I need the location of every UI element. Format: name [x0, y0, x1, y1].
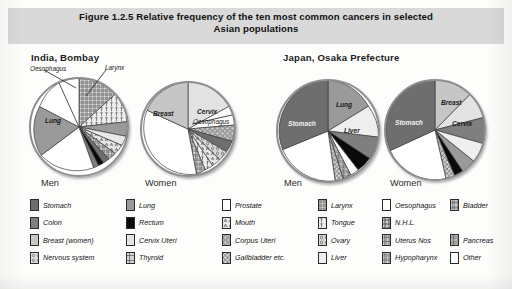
legend-swatch-icon	[222, 199, 231, 211]
legend-label: Corpus Uteri	[235, 236, 275, 245]
legend-label: Tongue	[331, 218, 355, 227]
legend-swatch-icon	[30, 217, 39, 229]
pie-japan-men: Stomach Lung Liver	[276, 79, 380, 183]
legend-label: Prostate	[235, 201, 262, 210]
slice-label-lung: Lung	[45, 117, 61, 124]
legend-label: Bladder	[463, 201, 488, 210]
legend-swatch-icon	[222, 252, 231, 264]
legend-swatch-icon	[318, 199, 327, 211]
legend-item-liver[interactable]: Liver	[318, 252, 347, 264]
slice-label-breast-japan-women: Breast	[441, 99, 462, 106]
legend-swatch-icon	[382, 217, 391, 229]
legend-label: Gallbladder etc.	[235, 253, 285, 262]
legend-item-prostate[interactable]: Prostate	[222, 199, 262, 211]
slice-label-liver-japan-men: Liver	[344, 127, 360, 134]
legend-item-gallbladder-etc[interactable]: Gallbladder etc.	[222, 252, 285, 264]
legend-item-tongue[interactable]: Tongue	[318, 217, 355, 229]
legend-label: Pancreas	[463, 236, 493, 245]
slice-label-cervix-japan-women: Cervix	[452, 120, 472, 127]
legend-item-nervous-system[interactable]: Nervous system	[30, 252, 95, 264]
legend-label: Liver	[331, 253, 347, 262]
legend: StomachColonBreast (women)Nervous system…	[30, 199, 500, 271]
callout-oesophagus-india-men: Oesophagus	[30, 65, 66, 72]
legend-swatch-icon	[318, 234, 327, 246]
slice-label-stomach-japan-women: Stomach	[395, 119, 423, 126]
legend-swatch-icon	[30, 252, 39, 264]
legend-label: Rectum	[139, 218, 164, 227]
legend-item-bladder[interactable]: Bladder	[450, 199, 488, 211]
legend-item-corpus-uteri[interactable]: Corpus Uteri	[222, 234, 275, 246]
legend-item-n-h-l[interactable]: N.H.L.	[382, 217, 415, 229]
pie-india-women: Breast Cervix	[140, 81, 236, 177]
legend-swatch-icon	[126, 252, 135, 264]
figure-page: Figure 1.2.5 Relative frequency of the t…	[0, 0, 512, 289]
legend-swatch-icon	[450, 252, 459, 264]
legend-item-pancreas[interactable]: Pancreas	[450, 234, 493, 246]
legend-swatch-icon	[450, 234, 459, 246]
legend-item-lung[interactable]: Lung	[126, 199, 155, 211]
legend-item-stomach[interactable]: Stomach	[30, 199, 71, 211]
legend-label: Thyroid	[139, 253, 163, 262]
legend-label: Mouth	[235, 218, 255, 227]
legend-swatch-icon	[318, 217, 327, 229]
legend-item-breast-women[interactable]: Breast (women)	[30, 234, 94, 246]
legend-label: Uterus Nos	[395, 236, 431, 245]
slice-label-lung-japan-men: Lung	[336, 101, 352, 108]
slice-label-breast: Breast	[153, 110, 174, 117]
callout-larynx-india-men: Larynx	[105, 64, 124, 71]
slice-label-stomach-japan-men: Stomach	[288, 120, 316, 127]
legend-label: Breast (women)	[43, 236, 94, 245]
sex-label-india-men: Men	[41, 178, 59, 188]
legend-swatch-icon	[30, 199, 39, 211]
legend-label: Hypopharynx	[395, 253, 437, 262]
legend-item-hypopharynx[interactable]: Hypopharynx	[382, 252, 437, 264]
sex-label-japan-women: Women	[390, 178, 422, 188]
legend-label: Cervix Uteri	[139, 236, 177, 245]
sex-label-japan-men: Men	[284, 178, 302, 188]
legend-swatch-icon	[222, 234, 231, 246]
legend-swatch-icon	[318, 252, 327, 264]
legend-swatch-icon	[382, 199, 391, 211]
legend-item-oesophagus[interactable]: Oesophagus	[382, 199, 436, 211]
legend-swatch-icon	[126, 234, 135, 246]
sex-label-india-women: Women	[145, 178, 177, 188]
legend-item-uterus-nos[interactable]: Uterus Nos	[382, 234, 431, 246]
legend-label: N.H.L.	[395, 218, 415, 227]
legend-label: Ovary	[331, 236, 350, 245]
figure-title: Figure 1.2.5 Relative frequency of the t…	[8, 11, 504, 36]
legend-item-cervix-uteri[interactable]: Cervix Uteri	[126, 234, 177, 246]
legend-swatch-icon	[126, 217, 135, 229]
legend-swatch-icon	[450, 199, 459, 211]
pie-japan-women: Stomach Breast Cervix	[384, 79, 486, 181]
figure-title-line2: Asian populations	[8, 23, 504, 35]
legend-item-ovary[interactable]: Ovary	[318, 234, 350, 246]
legend-label: Larynx	[331, 201, 353, 210]
legend-label: Colon	[43, 218, 62, 227]
legend-swatch-icon	[126, 199, 135, 211]
legend-swatch-icon	[30, 234, 39, 246]
legend-label: Other	[463, 253, 481, 262]
legend-label: Lung	[139, 201, 155, 210]
legend-item-larynx[interactable]: Larynx	[318, 199, 353, 211]
legend-swatch-icon	[382, 252, 391, 264]
legend-item-mouth[interactable]: Mouth	[222, 217, 255, 229]
legend-swatch-icon	[222, 217, 231, 229]
legend-label: Oesophagus	[395, 201, 436, 210]
legend-item-thyroid[interactable]: Thyroid	[126, 252, 163, 264]
legend-item-rectum[interactable]: Rectum	[126, 217, 164, 229]
callout-oesophagus-india-women: Oesophagus	[193, 118, 229, 125]
legend-label: Nervous system	[43, 253, 95, 262]
figure-title-line1: Figure 1.2.5 Relative frequency of the t…	[8, 11, 504, 23]
legend-item-colon[interactable]: Colon	[30, 217, 62, 229]
panel-heading-japan: Japan, Osaka Prefecture	[283, 52, 400, 63]
legend-label: Stomach	[43, 201, 71, 210]
legend-swatch-icon	[382, 234, 391, 246]
legend-item-other[interactable]: Other	[450, 252, 481, 264]
